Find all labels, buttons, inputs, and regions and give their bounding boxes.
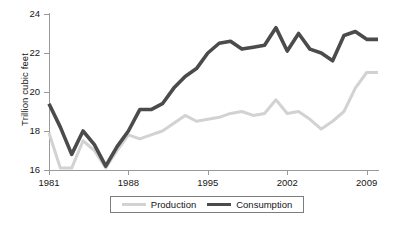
chart-legend: Production Consumption xyxy=(110,196,304,213)
legend-swatch-production-icon xyxy=(122,203,146,206)
legend-label-production: Production xyxy=(151,199,196,210)
chart-figure: Trillion cubic feet 1618202224 198119881… xyxy=(0,0,408,229)
series-layer xyxy=(49,28,378,168)
legend-item-consumption: Consumption xyxy=(207,199,292,210)
legend-label-consumption: Consumption xyxy=(236,199,292,210)
legend-swatch-consumption-icon xyxy=(207,203,231,207)
series-line-consumption xyxy=(49,28,378,166)
legend-item-production: Production xyxy=(122,199,196,210)
chart-plot-area xyxy=(0,0,408,229)
